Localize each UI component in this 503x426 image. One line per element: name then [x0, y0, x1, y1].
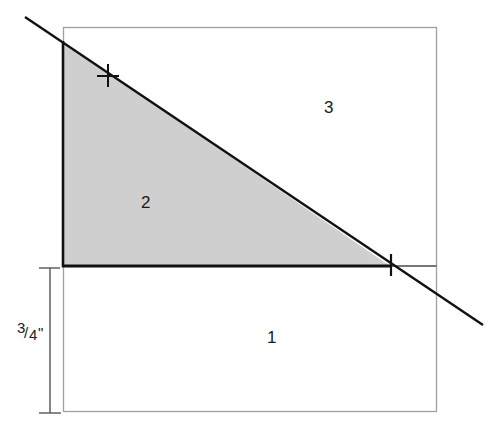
dimension-label: 3 / 4 ": [17, 319, 43, 343]
diagram-canvas: 3 2 1 3 / 4 ": [0, 0, 503, 426]
dimension-denominator: 4: [29, 326, 37, 343]
dimension-unit: ": [38, 324, 43, 341]
region-label-1: 1: [267, 328, 276, 347]
region-label-2: 2: [141, 193, 150, 212]
region-label-3: 3: [324, 98, 333, 117]
